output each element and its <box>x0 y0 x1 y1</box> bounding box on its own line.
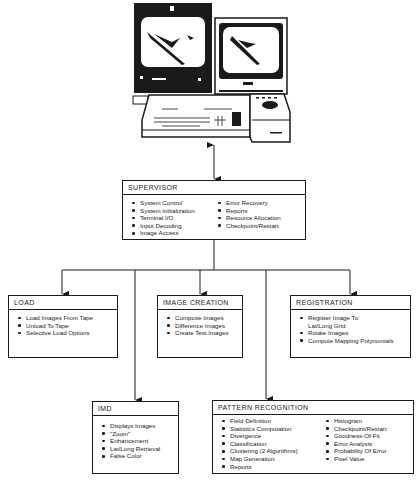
list-item: Resource Allocation <box>217 214 281 222</box>
list-item: Divergence <box>221 432 325 440</box>
workstation-illustration <box>132 2 292 144</box>
list-item: Compose Images <box>166 314 242 322</box>
list-item: Compute Mapping Polynomials <box>299 337 410 345</box>
list-item: Selective Load Options <box>17 329 117 337</box>
pattern-recognition-list-1: Field Definition Statistics Computation … <box>213 415 325 470</box>
list-item-continuation: Lat/Long Grid <box>299 322 410 330</box>
keyboard-console-icon <box>133 95 250 137</box>
list-item: Register Image To <box>299 314 410 322</box>
large-monitor-icon <box>134 3 212 93</box>
system-diagram: SUPERVISOR System Control System Initial… <box>0 0 419 482</box>
pattern-recognition-list-2: Histogram Checkpoint/Restart Goodness-Of… <box>325 415 387 470</box>
list-item: Checkpoint/Restart <box>325 425 387 433</box>
list-item: Unload To Tape <box>17 322 117 330</box>
pattern-recognition-title: PATTERN RECOGNITION <box>213 401 413 415</box>
list-item: Rotate Images <box>299 329 410 337</box>
list-item: Histogram <box>325 417 387 425</box>
imd-box: IMD Displays Images "Zoom" Enhancement L… <box>92 401 179 474</box>
list-item: Clustering (2 Algorithms) <box>221 447 325 455</box>
supervisor-box: SUPERVISOR System Control System Initial… <box>122 180 306 240</box>
supervisor-title: SUPERVISOR <box>123 181 305 195</box>
list-item: Lat/Long Retrieval <box>101 445 178 453</box>
list-item: False Color <box>101 452 178 460</box>
list-item: Displays Images <box>101 422 178 430</box>
list-item: Enhancement <box>101 437 178 445</box>
registration-list: Register Image To Lat/Long Grid Rotate I… <box>291 310 410 344</box>
supervisor-list-2: Error Recovery Reports Resource Allocati… <box>217 195 281 237</box>
list-item: Statistics Computation <box>221 425 325 433</box>
list-item: Classification <box>221 440 325 448</box>
image-creation-title: IMAGE CREATION <box>158 296 242 310</box>
list-item: Field Definition <box>221 417 325 425</box>
list-item: "Zoom" <box>101 430 178 438</box>
list-item: Goodness-Of-Fit <box>325 432 387 440</box>
list-item: Create Test Images <box>166 329 242 337</box>
list-item: Difference Images <box>166 322 242 330</box>
load-title: LOAD <box>9 296 117 310</box>
imd-list: Displays Images "Zoom" Enhancement Lat/L… <box>93 416 178 460</box>
load-box: LOAD Load Images From Tape Unload To Tap… <box>8 295 118 358</box>
list-item: Probability Of Error <box>325 447 387 455</box>
list-item: System Control <box>131 199 217 207</box>
list-item: Terminal I/O <box>131 214 217 222</box>
list-item: Map Generation <box>221 455 325 463</box>
list-item: System Initialization <box>131 207 217 215</box>
list-item: Reports <box>221 463 325 471</box>
list-item: Error Recovery <box>217 199 281 207</box>
registration-title: REGISTRATION <box>291 296 410 310</box>
supervisor-list-1: System Control System Initialization Ter… <box>123 195 217 237</box>
registration-box: REGISTRATION Register Image To Lat/Long … <box>290 295 411 358</box>
list-item: Checkpoint/Restart <box>217 222 281 230</box>
imd-title: IMD <box>93 402 178 416</box>
list-item: Input Decoding <box>131 222 217 230</box>
load-list: Load Images From Tape Unload To Tape Sel… <box>9 310 117 337</box>
small-monitor-icon <box>215 18 287 94</box>
list-item: Image Access <box>131 229 217 237</box>
list-item: Error Analysis <box>325 440 387 448</box>
list-item: Load Images From Tape <box>17 314 117 322</box>
pattern-recognition-box: PATTERN RECOGNITION Field Definition Sta… <box>212 400 414 474</box>
trackball-unit-icon <box>250 94 290 142</box>
image-creation-list: Compose Images Difference Images Create … <box>158 310 242 337</box>
list-item: Pixel Value <box>325 455 387 463</box>
list-item: Reports <box>217 207 281 215</box>
image-creation-box: IMAGE CREATION Compose Images Difference… <box>157 295 243 358</box>
